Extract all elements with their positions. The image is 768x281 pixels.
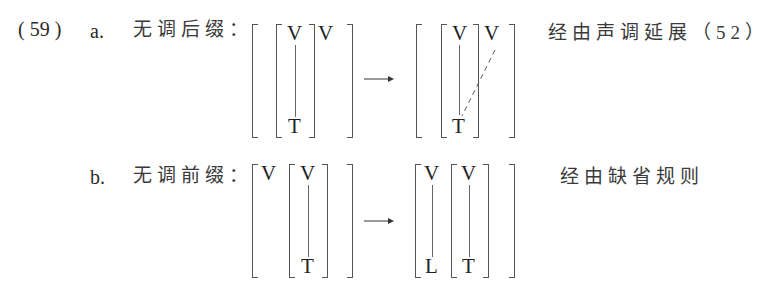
bracket-left xyxy=(252,164,258,278)
vowel-v: V xyxy=(300,162,315,184)
tone-t: T xyxy=(301,255,314,277)
vowel-v: V xyxy=(461,162,476,184)
association-line xyxy=(469,185,470,257)
association-line xyxy=(432,185,433,257)
bracket-right xyxy=(509,164,515,278)
arrow-icon xyxy=(364,216,394,226)
item-a-note: 经由声调延展（52） xyxy=(548,22,768,44)
tone-t: T xyxy=(462,255,475,277)
association-line xyxy=(308,185,309,257)
item-b-note: 经由缺省规则 xyxy=(560,166,704,188)
bracket-left xyxy=(289,164,295,278)
bracket-right xyxy=(322,164,328,278)
item-b-title: 无调前缀： xyxy=(133,165,253,187)
bracket-right xyxy=(347,164,353,278)
bracket-right xyxy=(483,164,489,278)
vowel-v: V xyxy=(424,162,439,184)
tone-l: L xyxy=(425,255,438,277)
bracket-left xyxy=(415,164,421,278)
vowel-v: V xyxy=(261,162,276,184)
bracket-left xyxy=(451,164,457,278)
item-b-marker: b. xyxy=(90,166,105,188)
